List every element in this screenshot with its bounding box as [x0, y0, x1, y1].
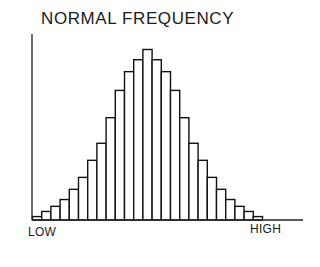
- histogram-bar: [189, 143, 198, 220]
- histogram-bar: [226, 200, 235, 220]
- histogram-bar: [51, 206, 60, 220]
- histogram-bar: [115, 90, 124, 220]
- histogram-bar: [60, 200, 69, 220]
- histogram-bar: [97, 143, 106, 220]
- histogram-bar: [143, 50, 152, 221]
- histogram-bar: [161, 72, 170, 220]
- x-axis-high-label: HIGH: [250, 222, 281, 236]
- histogram-bar: [79, 177, 88, 220]
- histogram-bar: [217, 189, 226, 220]
- histogram-bar: [69, 189, 78, 220]
- histogram-bar: [42, 211, 51, 220]
- histogram-bar: [235, 206, 244, 220]
- histogram-bar: [134, 60, 143, 220]
- x-axis-low-label: LOW: [28, 225, 56, 239]
- histogram-bar: [244, 211, 253, 220]
- histogram-bar: [88, 160, 97, 220]
- histogram-bars: [33, 50, 263, 221]
- histogram-bar: [171, 90, 180, 220]
- histogram-bar: [125, 72, 134, 220]
- histogram-bar: [180, 118, 189, 220]
- histogram-bar: [152, 60, 161, 220]
- histogram-bar: [106, 118, 115, 220]
- histogram-bar: [207, 177, 216, 220]
- histogram-bar: [198, 160, 207, 220]
